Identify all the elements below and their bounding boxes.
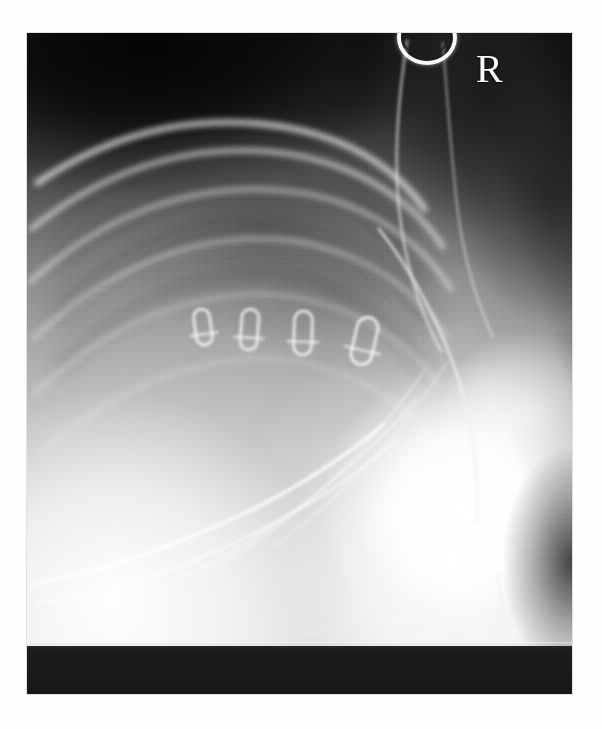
soft-tissue-edge-group (303, 41, 501, 669)
surgical-clip-crossbar-2 (235, 337, 264, 339)
surgical-clip-loop-2 (240, 308, 260, 350)
surgical-clip-2 (234, 308, 266, 351)
soft-tissue-edge-cervical-ventral-border (397, 41, 441, 351)
sternal-line-1 (31, 425, 383, 585)
surgical-clip-crossbar-3 (287, 341, 318, 342)
surgical-clip-loop-1 (193, 308, 214, 346)
radiograph-page: R (0, 0, 602, 729)
sternal-line-group (31, 363, 447, 603)
surgical-clip-3 (287, 310, 319, 355)
soft-tissue-edge-diaphragm-line (303, 630, 467, 635)
xray-film-plate: R (27, 33, 572, 694)
sternal-line-2 (37, 441, 395, 603)
laterality-marker-right: R (476, 49, 503, 89)
anatomy-overlay (27, 33, 572, 694)
surgical-clip-loop-3 (293, 311, 313, 356)
surgical-clip-1 (187, 307, 219, 346)
collimation-band-bottom (27, 646, 572, 694)
